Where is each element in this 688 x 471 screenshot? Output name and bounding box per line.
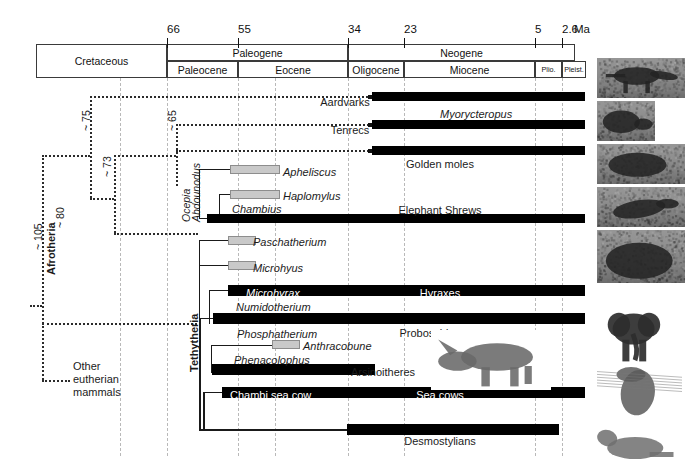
taxon-label-microhyrax: Microhyrax (246, 287, 300, 299)
gridline (535, 78, 536, 456)
ma-unit-label: Ma (574, 23, 590, 35)
taxon-label-hyraxes: Hyraxes (420, 287, 460, 299)
tick-mark-23 (404, 38, 405, 48)
gridline (167, 78, 168, 456)
node-age-80: ~ 80 (54, 207, 66, 228)
taxon-label-haplomylus: Haplomylus (283, 190, 340, 202)
numidotherium-branch (199, 318, 213, 319)
haplomylus-bar (230, 190, 280, 199)
macroscelidea-stem-dash (114, 233, 198, 235)
node73-vline (114, 155, 116, 233)
timescale-box-eocene: Eocene (238, 61, 348, 78)
haplomylus-branch (219, 194, 230, 195)
tenrec-photo (597, 101, 655, 141)
taxon-label-paschatherium: Paschatherium (253, 236, 326, 248)
timescale-box-paleocene: Paleocene (167, 61, 238, 78)
taxon-label-elephant-shrews: Elephant Shrews (398, 204, 481, 216)
tick-label-34: 34 (348, 23, 361, 35)
afrotheria-root-vline (42, 155, 44, 380)
sea-cow-photo (597, 363, 682, 420)
hyrax-photo (597, 230, 685, 283)
node80-dash (42, 155, 90, 157)
paenungulata-main-vline (199, 240, 200, 324)
timescale-box-pleist: Pleist. (562, 61, 586, 78)
paschatherium-bar (228, 236, 256, 245)
timescale-box-cretaceous: Cretaceous (36, 44, 167, 78)
clade-label-tethytheria: Tethytheria (188, 314, 200, 372)
node-age-65: ~ 65 (166, 110, 178, 131)
taxon-label-aardvarks: Aardvarks (320, 96, 370, 108)
tick-label-55: 55 (238, 23, 251, 35)
desmostylian-branch (199, 429, 349, 431)
taxon-label-phenacolophus: Phenacolophus (234, 354, 310, 366)
tethytheria-stem-dash (42, 323, 197, 325)
timescale-box-paleogene: Paleogene (167, 44, 348, 61)
node65-vline (176, 124, 178, 186)
anthracobune-bar (272, 340, 300, 349)
golden-mole-photo (597, 144, 685, 184)
desmostylian-photo (597, 417, 682, 467)
node-age-75: ~ 75 (80, 110, 92, 131)
microhyus-branch (199, 265, 228, 266)
elephant-shrew-bar (207, 214, 585, 223)
rotated-taxon-abdounodus: Abdounodus (190, 163, 202, 222)
taxon-label-anthracobune: Anthracobune (303, 340, 372, 352)
tick-label-23: 23 (404, 23, 417, 35)
anthracobune-branch (211, 345, 272, 346)
tick-label-5: 5 (535, 23, 541, 35)
golden-mole-bar (372, 146, 585, 155)
node-age-73: ~ 73 (101, 156, 113, 177)
gridline (120, 78, 121, 456)
sirenia-vline (203, 392, 205, 430)
taxon-label-golden-moles: Golden moles (406, 158, 474, 170)
microhyrax-branch (209, 290, 228, 291)
arsinoitherium-photo (431, 330, 551, 390)
timescale-box-oligocene: Oligocene (348, 61, 404, 78)
desmostylian-bar (347, 424, 559, 435)
gridline (562, 78, 563, 456)
outgroup-line-1: Other (73, 360, 121, 373)
gridline (404, 78, 405, 456)
tick-mark-5 (535, 38, 536, 48)
clade-label-afrotheria: Afrotheria (45, 222, 57, 275)
taxon-label-chambi-sea-cow: Chambi sea cow (230, 389, 311, 401)
apheliscus-bar (230, 165, 280, 174)
node73-dash (90, 198, 114, 200)
paschatherium-branch (199, 240, 228, 241)
taxon-label-chambius: Chambius (232, 203, 282, 215)
outgroup-line-2: eutherian (73, 373, 121, 386)
taxon-label-tenrecs: Tenrecs (331, 124, 370, 136)
taxon-label-phosphatherium: Phosphatherium (237, 328, 317, 340)
aardvark-photo (597, 58, 685, 98)
apheliscus-branch (199, 169, 230, 170)
taxon-label-myorycteropus: Myorycteropus (440, 108, 512, 120)
golden-mole-dash (176, 150, 372, 152)
outgroup-label: Other eutherian mammals (73, 360, 121, 399)
elephant-photo (600, 305, 670, 365)
proboscidea-bar (213, 313, 585, 324)
tenrec-bar (372, 120, 585, 129)
tick-mark-66 (167, 38, 168, 48)
other-eutherians-dash (42, 380, 70, 382)
tick-mark-34 (348, 38, 349, 48)
taxon-label-apheliscus: Apheliscus (283, 166, 336, 178)
taxon-label-desmostylians: Desmostylians (404, 435, 476, 447)
timescale-box-miocene: Miocene (404, 61, 535, 78)
elephant-shrew-photo (597, 187, 685, 227)
outgroup-line-3: mammals (73, 386, 121, 399)
taxon-label-numidotherium: Numidotherium (236, 301, 311, 313)
taxon-label-sea-cows: Sea cows (416, 389, 464, 401)
node-age-105: ~ 105 (32, 223, 44, 250)
tick-mark-2.6 (562, 38, 563, 48)
timescale-box-neogene: Neogene (348, 44, 575, 61)
microhyus-bar (228, 261, 256, 270)
taxon-label-arsinoitheres: Arsinoitheres (351, 366, 415, 378)
aardvark-bar (372, 92, 585, 101)
root-stem-dash (30, 305, 42, 307)
timescale-box-plio: Plio. (535, 61, 562, 78)
tick-mark-55 (238, 38, 239, 48)
node65-dash (114, 155, 176, 157)
figure-canvas: 6655342352.6 Ma CretaceousPaleogeneNeoge… (0, 0, 688, 471)
tick-label-66: 66 (167, 23, 180, 35)
taxon-label-microhyus: Microhyus (253, 262, 303, 274)
